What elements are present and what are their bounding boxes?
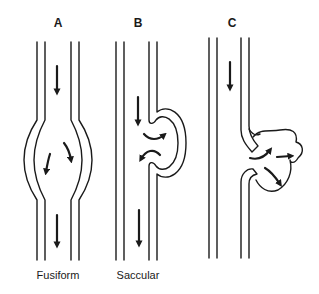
flow-arrow-curve-icon [46, 154, 50, 172]
panel-c-label: C [228, 16, 237, 30]
panel-a-label: A [54, 16, 63, 30]
panel-a-fusiform: A Fusiform [24, 16, 92, 281]
panel-c-irregular: C [209, 16, 302, 258]
sac-wall-outer [157, 42, 186, 260]
panel-b-label: B [134, 16, 143, 30]
aneurysm-diagram: A Fusiform B Saccular C [0, 0, 319, 294]
flow-arrow-into-sac-icon [144, 134, 164, 139]
flow-arrow-in-sac-icon [277, 156, 291, 157]
flow-arrow-out-sac-icon [141, 151, 160, 159]
flow-arrow-curve-icon [64, 143, 71, 160]
flow-arrow-in-sac-icon [265, 168, 280, 184]
panel-b-caption: Saccular [117, 269, 160, 281]
vessel-wall-torn-lower [241, 169, 257, 258]
vessel-wall-inner-left [34, 42, 45, 260]
panel-b-saccular: B Saccular [116, 16, 186, 281]
vessel-wall-inner-right [71, 42, 82, 260]
panel-a-caption: Fusiform [37, 269, 80, 281]
